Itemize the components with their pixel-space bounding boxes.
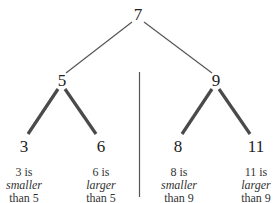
edge-9-11 <box>219 89 250 134</box>
node-root: 7 <box>134 6 143 23</box>
edge-7-5 <box>66 22 132 73</box>
edge-7-9 <box>144 22 212 73</box>
caption-11-line3: than 9 <box>226 192 279 203</box>
caption-6: 6 is larger than 5 <box>71 166 131 203</box>
caption-8-line3: than 9 <box>149 192 209 203</box>
edge-5-3 <box>28 89 58 134</box>
edge-9-8 <box>182 89 212 134</box>
leaf-node-6: 6 <box>97 138 106 155</box>
leaf-node-8: 8 <box>174 138 183 155</box>
caption-3: 3 is smaller than 5 <box>0 166 54 203</box>
node-left-child: 5 <box>58 72 67 89</box>
caption-11: 11 is larger than 9 <box>226 166 279 203</box>
leaf-node-3: 3 <box>20 138 29 155</box>
leaf-node-11: 11 <box>248 138 264 155</box>
caption-3-line3: than 5 <box>0 192 54 203</box>
edge-5-6 <box>65 89 96 134</box>
caption-6-line3: than 5 <box>71 192 131 203</box>
node-right-child: 9 <box>212 72 221 89</box>
caption-8: 8 is smaller than 9 <box>149 166 209 203</box>
